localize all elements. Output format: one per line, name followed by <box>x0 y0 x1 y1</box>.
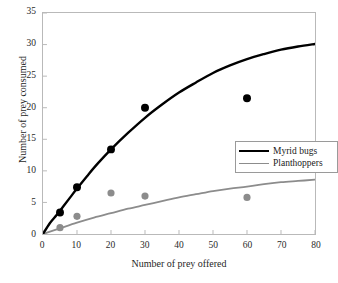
y-tick-label: 0 <box>8 230 36 240</box>
data-point <box>56 209 64 217</box>
legend-line-swatch-planthoppers <box>239 163 269 164</box>
y-axis-title: Number of prey consumed <box>17 30 28 190</box>
data-point <box>243 194 250 201</box>
x-tick-label: 10 <box>72 241 82 251</box>
tick-marks <box>43 13 315 234</box>
series-planthoppers-curve <box>43 180 315 234</box>
data-point <box>56 224 63 231</box>
y-tick-label: 35 <box>8 7 36 17</box>
x-tick-label: 30 <box>140 241 150 251</box>
fit-curve <box>43 180 315 234</box>
chart-data-canvas <box>43 13 315 234</box>
data-point <box>141 193 148 200</box>
data-point <box>107 145 115 153</box>
data-point <box>73 183 81 191</box>
data-point <box>243 94 251 102</box>
legend-line-swatch-myrid <box>239 150 269 152</box>
x-tick-label: 60 <box>243 241 253 251</box>
series-myrid-curve <box>43 44 315 234</box>
chart-legend: Myrid bugs Planthoppers <box>235 141 338 173</box>
data-point <box>73 213 80 220</box>
fit-curve <box>43 44 315 234</box>
x-tick-label: 0 <box>40 241 45 251</box>
legend-item-planthoppers: Planthoppers <box>239 157 333 169</box>
x-tick-label: 80 <box>311 241 321 251</box>
series-myrid-points <box>56 94 251 216</box>
legend-item-myrid-bugs: Myrid bugs <box>239 145 333 157</box>
legend-label-planthoppers: Planthoppers <box>273 158 323 169</box>
x-tick-label: 50 <box>209 241 219 251</box>
data-point <box>107 189 114 196</box>
x-tick-label: 40 <box>174 241 184 251</box>
legend-label-myrid: Myrid bugs <box>273 146 317 157</box>
series-planthoppers-points <box>56 189 250 231</box>
data-point <box>141 104 149 112</box>
y-tick-label: 5 <box>8 198 36 208</box>
x-tick-label: 70 <box>277 241 287 251</box>
x-tick-label: 20 <box>106 241 116 251</box>
plot-area: Myrid bugs Planthoppers <box>42 12 316 235</box>
x-axis-title: Number of prey offered <box>42 258 316 269</box>
